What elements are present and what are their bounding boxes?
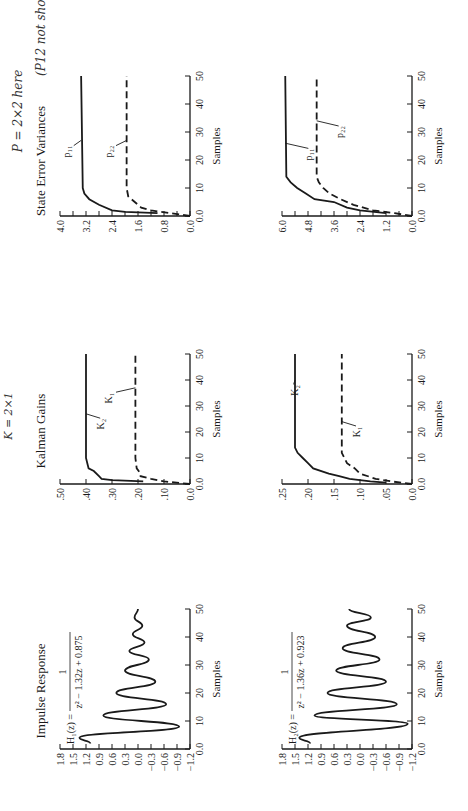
series-label: K₂ — [289, 385, 300, 396]
x-axis-label: Samples — [210, 127, 222, 164]
chart-impulse-h2: −1.2−0.9−0.6−0.30.00.30.60.91.21.51.80.0… — [277, 604, 445, 771]
y-tick-label: 6.0 — [277, 220, 288, 233]
y-tick-label: 1.8 — [55, 753, 66, 766]
x-tick-label: 0.0 — [416, 210, 427, 223]
y-tick-label: −0.3 — [146, 753, 157, 771]
impulse-column-title: Impulse Response — [33, 643, 48, 738]
y-tick-label: 1.5 — [68, 753, 79, 766]
y-tick-label: .40 — [81, 488, 92, 501]
figure-canvas: Impulse Response Kalman Gains State Erro… — [0, 0, 468, 811]
y-tick-label: .15 — [329, 488, 340, 501]
x-tick-label: 20 — [194, 688, 205, 698]
x-tick-label: 20 — [416, 427, 427, 437]
y-tick-label: 0.0 — [133, 753, 144, 766]
chart-gains-h1: 0.0.10.20.30.40.500.01020304050SamplesK₂… — [55, 349, 223, 501]
chart-impulse-h1: −1.2−0.9−0.6−0.30.00.30.60.91.21.51.80.0… — [55, 604, 223, 771]
y-tick-label: −0.3 — [368, 753, 379, 771]
y-tick-label: 2.4 — [107, 220, 118, 233]
x-tick-label: 20 — [416, 155, 427, 165]
y-tick-label: 0.6 — [107, 753, 118, 766]
x-tick-label: 20 — [194, 155, 205, 165]
series-p₁₁ — [81, 76, 157, 213]
series-h2 — [299, 609, 407, 743]
gain-note: K = 2×1 — [2, 392, 15, 441]
x-tick-label: 30 — [416, 127, 427, 137]
x-tick-label: 10 — [416, 453, 427, 463]
y-tick-label: .50 — [55, 488, 66, 501]
y-tick-label: 1.6 — [133, 220, 144, 233]
y-tick-label: 0.3 — [342, 753, 353, 766]
y-tick-label: 1.8 — [277, 753, 288, 766]
y-tick-label: −1.2 — [185, 753, 196, 771]
x-tick-label: 30 — [194, 401, 205, 411]
chart-variances-h1: 0.00.81.62.43.24.00.01020304050Samplesp₁… — [55, 71, 223, 233]
x-tick-label: 50 — [194, 604, 205, 614]
series-p₂₂ — [317, 76, 412, 216]
series-label: p₁₁ — [61, 146, 72, 158]
x-axis-label: Samples — [432, 660, 444, 697]
x-tick-label: 0.0 — [416, 743, 427, 756]
series-label: K₂ — [95, 419, 106, 430]
x-axis-label: Samples — [432, 127, 444, 164]
series-label: p₂₂ — [103, 146, 114, 158]
x-tick-label: 10 — [416, 183, 427, 193]
x-tick-label: 0.0 — [416, 478, 427, 491]
x-tick-label: 20 — [194, 427, 205, 437]
y-tick-label: −1.2 — [407, 753, 418, 771]
y-tick-label: 0.0 — [355, 753, 366, 766]
y-tick-label: 1.5 — [290, 753, 301, 766]
y-tick-label: 4.0 — [55, 220, 66, 233]
series-h1 — [80, 609, 180, 743]
variance-note: P = 2×2 here — [11, 70, 25, 154]
y-tick-label: 3.6 — [329, 220, 340, 233]
y-tick-label: .05 — [381, 488, 392, 501]
x-tick-label: 50 — [194, 71, 205, 81]
y-tick-label: .10 — [159, 488, 170, 501]
equation-denominator: z² − 1.32z + 0.875 — [73, 635, 84, 708]
series-p₂₂ — [127, 76, 190, 216]
x-tick-label: 40 — [194, 375, 205, 385]
series-label: K₁ — [103, 393, 114, 404]
y-tick-label: 0.6 — [329, 753, 340, 766]
equation-denominator: z² − 1.36z + 0.923 — [295, 635, 306, 708]
rotated-figure: Impulse Response Kalman Gains State Erro… — [0, 0, 468, 811]
y-tick-label: .10 — [355, 488, 366, 501]
variance-title-note: (P12 not shown) — [34, 0, 48, 76]
series-p₁₁ — [285, 76, 386, 213]
x-tick-label: 30 — [416, 660, 427, 670]
y-tick-label: −0.9 — [394, 753, 405, 771]
y-tick-label: .20 — [133, 488, 144, 501]
series-K₁ — [135, 354, 190, 484]
x-tick-label: 10 — [194, 453, 205, 463]
x-tick-label: 40 — [416, 632, 427, 642]
series-K₁ — [342, 354, 412, 484]
equation-lhs: H₂(z) = — [287, 714, 299, 744]
x-axis-label: Samples — [432, 400, 444, 437]
x-tick-label: 10 — [416, 716, 427, 726]
y-tick-label: 4.8 — [303, 220, 314, 233]
x-axis-label: Samples — [210, 660, 222, 697]
x-tick-label: 0.0 — [194, 743, 205, 756]
y-tick-label: 2.4 — [355, 220, 366, 233]
y-tick-label: −0.6 — [381, 753, 392, 771]
x-tick-label: 30 — [194, 660, 205, 670]
series-label: p₁₁ — [303, 148, 314, 160]
x-tick-label: 0.0 — [194, 478, 205, 491]
y-tick-label: 1.2 — [381, 220, 392, 233]
x-tick-label: 30 — [194, 127, 205, 137]
series-K₂ — [295, 354, 386, 483]
gains-column-title: Kalman Gains — [33, 394, 48, 469]
y-tick-label: .25 — [277, 488, 288, 501]
chart-variances-h2: 0.01.22.43.64.86.00.01020304050Samplesp₁… — [277, 71, 445, 233]
y-tick-label: 0.3 — [120, 753, 131, 766]
x-tick-label: 20 — [416, 688, 427, 698]
variances-column-title: State Error Variances — [33, 106, 48, 216]
equation-lhs: H₁(z) = — [65, 714, 77, 744]
y-tick-label: .20 — [303, 488, 314, 501]
x-tick-label: 50 — [416, 349, 427, 359]
x-tick-label: 10 — [194, 183, 205, 193]
x-tick-label: 40 — [416, 375, 427, 385]
equation-numerator: 1 — [57, 670, 68, 675]
x-tick-label: 30 — [416, 401, 427, 411]
x-axis-label: Samples — [210, 400, 222, 437]
